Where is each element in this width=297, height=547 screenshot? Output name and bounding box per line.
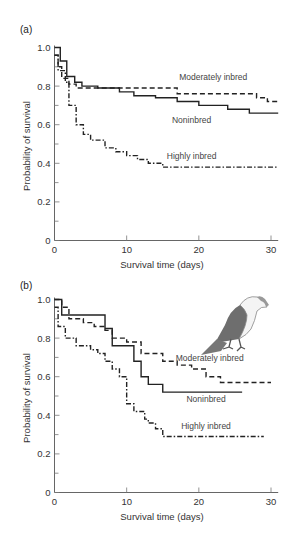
x-tick-label: 30 — [266, 496, 277, 507]
y-tick-label: 0.2 — [37, 448, 50, 459]
x-tick-label: 20 — [194, 496, 205, 507]
y-tick-label: 1.0 — [37, 294, 50, 305]
x-tick-label: 0 — [52, 244, 57, 255]
panel-a-series-labels: Moderately inbredNoninbredHighly inbred — [167, 72, 248, 161]
panel-a-label: (a) — [20, 24, 32, 35]
x-tick-label: 10 — [121, 244, 132, 255]
series-label: Noninbred — [186, 394, 225, 404]
panel-a-y-axis-title: Probability of survival — [21, 101, 32, 191]
y-tick-label: 0.8 — [37, 333, 50, 344]
y-tick-label: 0.6 — [37, 119, 50, 130]
y-tick-label: 0 — [45, 487, 50, 498]
panel-b-label: (b) — [20, 280, 32, 291]
panel-a-chart: (a) Probability of survival Survival tim… — [20, 24, 278, 270]
series-label: Highly inbred — [181, 421, 231, 431]
y-tick-label: 0.6 — [37, 371, 50, 382]
x-tick-label: 20 — [194, 244, 205, 255]
series-label: Highly inbred — [167, 151, 217, 161]
series-label: Noninbred — [172, 115, 211, 125]
panel-b-x-axis-title: Survival time (days) — [120, 511, 203, 522]
figure: (a) Probability of survival Survival tim… — [0, 0, 297, 547]
series-label: Moderately inbred — [176, 353, 244, 363]
y-tick-label: 1.0 — [37, 42, 50, 53]
x-tick-label: 10 — [121, 496, 132, 507]
panel-a-curves — [55, 48, 279, 168]
panel-a-x-axis-title: Survival time (days) — [120, 259, 203, 270]
panel-b-y-axis-title: Probability of survival — [21, 353, 32, 443]
y-tick-label: 0 — [45, 235, 50, 246]
y-tick-label: 0.2 — [37, 196, 50, 207]
panel-b-chart: (b) Probability of survival Survival tim… — [20, 280, 278, 522]
bird-illustration-icon — [201, 296, 269, 355]
x-tick-label: 30 — [266, 244, 277, 255]
y-tick-label: 0.8 — [37, 81, 50, 92]
x-tick-label: 0 — [52, 496, 57, 507]
y-tick-label: 0.4 — [37, 410, 50, 421]
series-label: Moderately inbred — [179, 72, 247, 82]
y-tick-label: 0.4 — [37, 158, 50, 169]
